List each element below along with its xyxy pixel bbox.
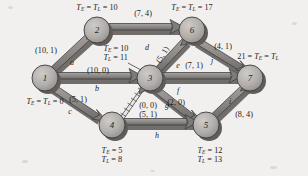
node-5-circle[interactable] — [193, 112, 219, 138]
activity-network-figure: 1 2 3 4 5 6 7 (10, 1) (7, 4) (10, 0) (5,… — [0, 0, 308, 176]
node-6-circle[interactable] — [179, 17, 205, 43]
node-1-circle[interactable] — [32, 65, 58, 91]
node-3-circle[interactable] — [137, 65, 163, 91]
node-4-circle[interactable] — [99, 112, 125, 138]
node-2-circle[interactable] — [84, 17, 110, 43]
node-7-circle[interactable] — [237, 65, 263, 91]
network-graph-canvas — [0, 0, 308, 176]
